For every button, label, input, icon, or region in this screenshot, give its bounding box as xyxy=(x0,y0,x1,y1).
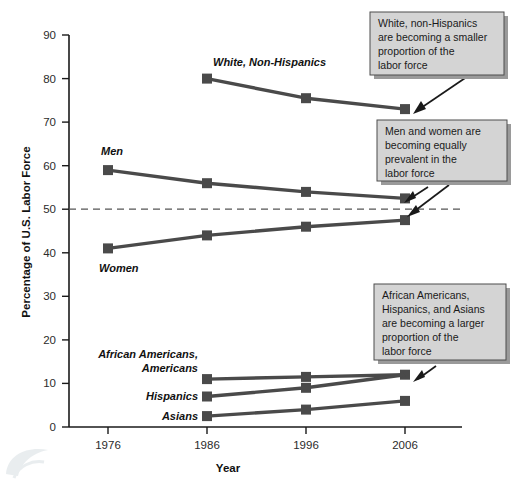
series-line-men xyxy=(108,170,405,198)
data-point-marker xyxy=(400,104,410,114)
data-point-marker xyxy=(202,411,212,421)
series-label-hispanics: Hispanics xyxy=(146,390,198,402)
callout-arrowhead xyxy=(413,370,425,382)
series-label-white-non-hispanics: White, Non-Hispanics xyxy=(213,56,326,68)
data-point-marker xyxy=(202,178,212,188)
callout-line: labor force xyxy=(378,59,428,71)
series-line-women xyxy=(108,220,405,248)
y-tick-label-0: 0 xyxy=(50,421,56,433)
series-asians: Asians xyxy=(161,396,410,422)
y-tick-label-80: 80 xyxy=(43,73,56,85)
y-tick-label-20: 20 xyxy=(43,334,56,346)
data-point-marker xyxy=(103,165,113,175)
line-chart-svg: 0 10 20 30 40 50 60 70 80 90 1976 1986 1… xyxy=(0,0,516,480)
series-label-women: Women xyxy=(99,262,139,274)
x-tick-label-1986: 1986 xyxy=(194,439,220,451)
data-point-marker xyxy=(400,396,410,406)
annotation-minority-callout: African Americans, Hispanics, and Asians… xyxy=(374,284,510,382)
y-tick-label-50: 50 xyxy=(43,203,56,215)
series-men: Men xyxy=(101,145,410,203)
data-point-marker xyxy=(202,374,212,384)
data-point-marker xyxy=(301,383,311,393)
data-point-marker xyxy=(301,372,311,382)
data-point-marker xyxy=(202,392,212,402)
callout-arrowhead xyxy=(407,205,420,217)
callout-line: African Americans, xyxy=(382,289,470,301)
callout-line: prevalent in the xyxy=(385,153,457,165)
callout-line: proportion of the xyxy=(382,331,459,343)
callout-line: White, non-Hispanics xyxy=(378,17,477,29)
data-point-marker xyxy=(301,93,311,103)
y-axis-title: Percentage of U.S. Labor Force xyxy=(20,146,32,317)
callout-line: labor force xyxy=(382,345,432,357)
data-point-marker xyxy=(103,243,113,253)
data-point-marker xyxy=(301,405,311,415)
data-point-marker xyxy=(202,230,212,240)
y-tick-label-10: 10 xyxy=(43,377,56,389)
x-tick-label-1996: 1996 xyxy=(293,439,319,451)
series-label-asians: Asians xyxy=(161,410,198,422)
chart-figure: 0 10 20 30 40 50 60 70 80 90 1976 1986 1… xyxy=(0,0,516,480)
data-point-marker xyxy=(301,187,311,197)
y-tick-label-40: 40 xyxy=(43,247,56,259)
callout-line: are becoming a larger xyxy=(382,317,485,329)
series-women: Women xyxy=(99,215,410,274)
series-label-men: Men xyxy=(101,145,123,157)
y-axis-tick-labels: 0 10 20 30 40 50 60 70 80 90 xyxy=(43,29,56,433)
y-tick-label-30: 30 xyxy=(43,290,56,302)
x-axis-title: Year xyxy=(216,462,241,474)
x-tick-label-1976: 1976 xyxy=(95,439,121,451)
y-axis-ticks xyxy=(62,35,69,427)
y-tick-label-90: 90 xyxy=(43,29,56,41)
series-label-african-americans-line1: African Americans, xyxy=(97,348,198,360)
series-label-african-americans-line2: Americans xyxy=(141,362,198,374)
y-tick-label-70: 70 xyxy=(43,116,56,128)
callout-arrowhead xyxy=(413,101,426,114)
callout-line: are becoming a smaller xyxy=(378,31,488,43)
callout-line: proportion of the xyxy=(378,45,455,57)
callout-line: becoming equally xyxy=(385,139,467,151)
annotation-gender-callout: Men and women are becoming equally preva… xyxy=(377,120,511,217)
data-point-marker xyxy=(202,74,212,84)
x-axis-tick-labels: 1976 1986 1996 2006 xyxy=(95,439,418,451)
callout-line: labor force xyxy=(385,167,435,179)
x-axis-ticks xyxy=(108,427,405,434)
callout-line: Hispanics, and Asians xyxy=(382,303,485,315)
data-point-marker xyxy=(301,222,311,232)
data-point-marker xyxy=(400,215,410,225)
x-tick-label-2006: 2006 xyxy=(392,439,418,451)
annotation-white-callout: White, non-Hispanics are becoming a smal… xyxy=(370,12,508,114)
y-tick-label-60: 60 xyxy=(43,160,56,172)
callout-line: Men and women are xyxy=(385,125,481,137)
